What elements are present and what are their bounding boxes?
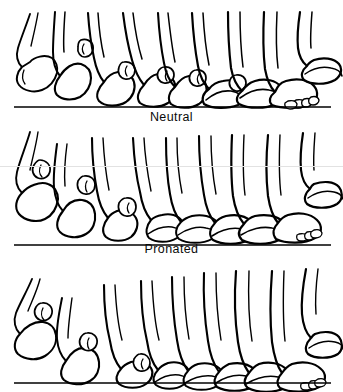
foot-frame-9 <box>298 12 342 84</box>
panel-label-pronated: Pronated <box>0 242 343 256</box>
foot-frame-1 <box>15 279 57 359</box>
panel-pronated: Pronated <box>0 130 343 261</box>
panel-third-drawing <box>0 261 343 392</box>
foot-frame-2 <box>53 12 93 99</box>
panel-third <box>0 261 343 392</box>
foot-frame-2 <box>57 298 99 384</box>
gait-cycle-figure: Neutral <box>0 0 343 392</box>
foot-frame-3 <box>88 13 135 106</box>
panel-neutral: Neutral <box>0 0 343 130</box>
scan-artifact-line <box>0 166 343 167</box>
panel-label-neutral: Neutral <box>0 110 343 124</box>
foot-frame-3 <box>92 138 137 241</box>
foot-frame-1 <box>16 132 58 221</box>
foot-frame-1 <box>17 13 57 91</box>
foot-frame-9 <box>301 133 343 208</box>
foot-frame-2 <box>54 144 95 237</box>
foot-frame-4 <box>133 138 183 242</box>
foot-frame-9 <box>302 269 343 358</box>
